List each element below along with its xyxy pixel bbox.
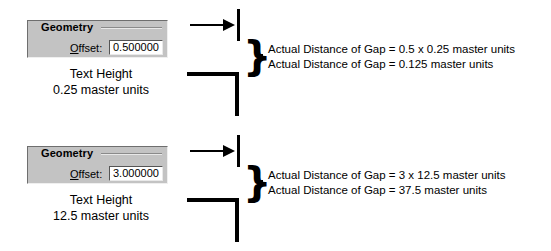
annotation-line-2: Actual Distance of Gap = 37.5 master uni… xyxy=(268,183,505,198)
example-large-text: Geometry Offset: 3.000000 Text Height 12… xyxy=(0,126,551,251)
groupbox-frame-line xyxy=(101,27,162,29)
offset-field-label: Offset: xyxy=(70,168,102,181)
leader-line xyxy=(190,24,227,26)
element-vertical-line xyxy=(235,72,239,116)
caption-line-2: 12.5 master units xyxy=(12,208,190,224)
geometry-groupbox-lower: Geometry Offset: 3.000000 xyxy=(27,146,168,184)
text-edge-vertical-line-top xyxy=(237,135,240,167)
annotation-line-2: Actual Distance of Gap = 0.125 master un… xyxy=(268,57,515,72)
annotation-line-1: Actual Distance of Gap = 0.5 x 0.25 mast… xyxy=(268,42,515,57)
caption-line-1: Text Height xyxy=(12,66,190,82)
element-vertical-line xyxy=(235,198,239,242)
brace-pointer-line xyxy=(255,180,263,182)
text-edge-vertical-line-top xyxy=(237,9,240,41)
gap-annotation-lower: Actual Distance of Gap = 3 x 12.5 master… xyxy=(268,168,505,198)
gap-annotation-upper: Actual Distance of Gap = 0.5 x 0.25 mast… xyxy=(268,42,515,72)
offset-input[interactable]: 0.500000 xyxy=(109,40,163,55)
groupbox-title: Geometry xyxy=(38,21,97,34)
offset-field-label: Offset: xyxy=(70,42,102,55)
right-arrow-icon xyxy=(223,19,235,31)
caption-line-2: 0.25 master units xyxy=(12,82,190,98)
curly-brace-icon: } xyxy=(243,164,257,200)
element-horizontal-line xyxy=(187,198,239,202)
geometry-groupbox-upper: Geometry Offset: 0.500000 xyxy=(27,20,168,58)
groupbox-face: Geometry Offset: 3.000000 xyxy=(29,148,166,182)
groupbox-title: Geometry xyxy=(38,147,97,160)
offset-field-row: Offset: 0.500000 xyxy=(29,40,166,56)
brace-pointer-line xyxy=(255,54,263,56)
element-horizontal-line xyxy=(187,72,239,76)
curly-brace-icon: } xyxy=(243,38,257,74)
annotation-line-1: Actual Distance of Gap = 3 x 12.5 master… xyxy=(268,168,505,183)
groupbox-face: Geometry Offset: 0.500000 xyxy=(29,22,166,56)
text-height-caption-lower: Text Height 12.5 master units xyxy=(12,192,190,224)
right-arrow-icon xyxy=(223,145,235,157)
text-height-caption-upper: Text Height 0.25 master units xyxy=(12,66,190,98)
example-small-text: Geometry Offset: 0.500000 Text Height 0.… xyxy=(0,0,551,125)
caption-line-1: Text Height xyxy=(12,192,190,208)
leader-line xyxy=(190,150,227,152)
groupbox-frame-line xyxy=(101,153,162,155)
offset-input[interactable]: 3.000000 xyxy=(109,166,163,181)
offset-field-row: Offset: 3.000000 xyxy=(29,166,166,182)
